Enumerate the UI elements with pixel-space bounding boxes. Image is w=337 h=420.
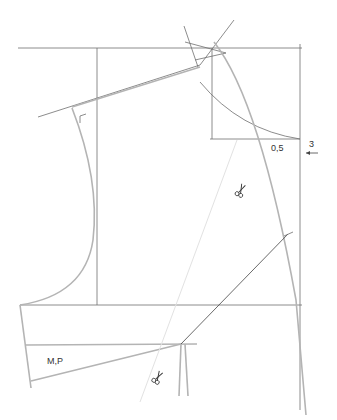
- dart-leg-left: [179, 344, 181, 396]
- arrow-left-icon: [306, 151, 318, 155]
- right-angle-icon: [80, 114, 86, 123]
- shoulder-crossing-2: [195, 53, 226, 60]
- scissors-icon: [151, 370, 164, 385]
- armhole-curve: [20, 108, 94, 305]
- neck-guide: [184, 26, 198, 67]
- dart-guide-line: [181, 234, 288, 344]
- side-seam: [20, 305, 31, 388]
- shoulder-line-inner: [72, 67, 200, 107]
- center-front-curve: [214, 42, 306, 415]
- shoulder-extension: [200, 20, 234, 65]
- cutting-guide-line: [140, 140, 237, 402]
- measurement-half-label: 0,5: [271, 143, 284, 153]
- dart-guide-tick: [284, 232, 293, 236]
- waist-line: [26, 344, 197, 345]
- shoulder-line: [38, 65, 200, 117]
- neckline-arc: [200, 82, 300, 139]
- scissors-icon: [234, 183, 247, 198]
- dart-leg-right: [185, 344, 188, 396]
- piece-label: M,P: [47, 356, 63, 366]
- pattern-diagram: 0,5 3 M,P: [0, 0, 337, 420]
- measurement-shift-label: 3: [309, 139, 314, 149]
